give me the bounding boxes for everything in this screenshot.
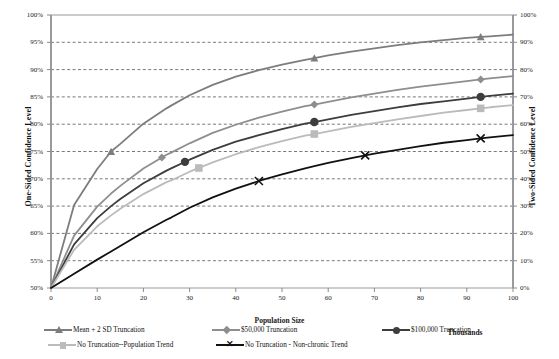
legend-swatch-circle [382,325,410,335]
legend-swatch-triangle [44,325,72,335]
series-circle [51,93,513,288]
y-tick-label: 60% [9,229,43,237]
chart-page: One-Sided Confidence Level Two-Sided Con… [0,0,559,359]
y-tick-label: 55% [9,257,43,265]
y-tick-label: 90% [9,66,43,74]
y-tick-label: 50% [9,284,43,292]
legend-row-2: No Truncation--Population Trend✕No Trunc… [0,340,559,350]
y-tick-label: 70% [9,175,43,183]
y2-tick-label: 100% [520,11,554,19]
y-tick-label: 100% [9,11,43,19]
y2-tick-label: 80% [520,66,554,74]
x-tick-label: 10 [82,294,112,302]
legend-item[interactable]: $100,000 Truncation [382,325,471,335]
y2-tick-label: 90% [520,38,554,46]
y2-tick-label: 20% [520,229,554,237]
legend-swatch-x: ✕ [216,340,244,350]
series-diamond [51,75,513,288]
y2-tick-label: 10% [520,257,554,265]
legend-item-label: $100,000 Truncation [411,326,471,334]
chart-plot-area [0,0,559,359]
y2-tick-label: 0% [520,284,554,292]
legend-item[interactable]: $50,000 Truncation [212,325,382,335]
x-tick-label: 90 [452,294,482,302]
legend-item[interactable]: ✕No Truncation - Non-chronic Trend [216,340,348,350]
chart-legend: Mean + 2 SD Truncation$50,000 Truncation… [0,325,559,350]
y2-tick-label: 60% [520,120,554,128]
y2-tick-label: 40% [520,175,554,183]
legend-item-label: $50,000 Truncation [241,326,297,334]
y2-tick-label: 30% [520,202,554,210]
y-tick-label: 95% [9,38,43,46]
series-x [51,134,513,288]
legend-item[interactable]: No Truncation--Population Trend [48,340,216,350]
y2-tick-label: 50% [520,148,554,156]
x-tick-label: 50 [267,294,297,302]
legend-swatch-diamond [212,325,240,335]
legend-item[interactable]: Mean + 2 SD Truncation [44,325,212,335]
x-tick-label: 20 [128,294,158,302]
y-tick-label: 85% [9,93,43,101]
y-tick-label: 80% [9,120,43,128]
y2-tick-label: 70% [520,93,554,101]
series-triangle [51,33,513,288]
y-tick-label: 65% [9,202,43,210]
x-tick-label: 60 [313,294,343,302]
series-square [51,105,513,288]
x-tick-label: 30 [175,294,205,302]
x-tick-label: 80 [406,294,436,302]
y-tick-label: 75% [9,148,43,156]
legend-item-label: No Truncation--Population Trend [77,341,173,349]
legend-row-1: Mean + 2 SD Truncation$50,000 Truncation… [0,325,559,335]
legend-item-label: Mean + 2 SD Truncation [73,326,145,334]
x-tick-label: 40 [221,294,251,302]
x-tick-label: 0 [36,294,66,302]
legend-item-label: No Truncation - Non-chronic Trend [245,341,348,349]
x-tick-label: 100 [498,294,528,302]
x-tick-label: 70 [359,294,389,302]
legend-swatch-square [48,340,76,350]
